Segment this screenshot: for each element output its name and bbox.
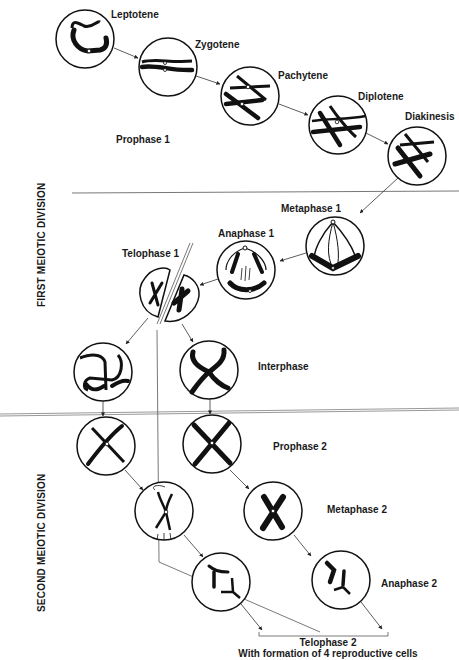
label-anaphase2: Anaphase 2 <box>381 579 437 589</box>
label-pachytene: Pachytene <box>278 71 328 81</box>
telophase2-caption: Telophase 2 With formation of 4 reproduc… <box>238 637 418 659</box>
telophase2-bracket <box>259 632 388 636</box>
cell-diakinesis <box>388 127 446 185</box>
label-metaphase2: Metaphase 2 <box>327 505 387 515</box>
label-diplotene: Diplotene <box>358 92 404 102</box>
label-interphase: Interphase <box>258 362 309 372</box>
cell-interphase-left <box>74 343 132 401</box>
telophase2-title: Telophase 2 <box>238 637 418 648</box>
cell-leptotene <box>56 10 114 68</box>
label-prophase1: Prophase 1 <box>116 135 170 145</box>
cell-prophase2-left <box>77 417 135 475</box>
cell-zygotene <box>139 38 197 96</box>
label-leptotene: Leptotene <box>111 10 159 20</box>
cell-anaphase2-left <box>192 553 250 611</box>
cell-prophase2-right <box>183 415 241 473</box>
telophase2-subtitle: With formation of 4 reproductive cells <box>238 648 418 659</box>
cell-anaphase2-right <box>312 551 370 609</box>
label-metaphase1: Metaphase 1 <box>281 204 341 214</box>
label-diakinesis: Diakinesis <box>405 112 454 122</box>
cell-metaphase2-left <box>135 482 193 540</box>
cell-telophase1 <box>140 268 199 321</box>
section-label-second-division: SECOND MEIOTIC DIVISION <box>36 473 47 612</box>
cell-diplotene <box>309 96 367 154</box>
telophase1-arrows <box>126 318 193 344</box>
prophase2-arrows <box>125 470 249 490</box>
metaphase2-arrows <box>184 535 311 557</box>
label-prophase2: Prophase 2 <box>273 442 327 452</box>
cell-anaphase1 <box>217 241 275 299</box>
cell-metaphase2-right <box>244 482 302 540</box>
section-label-first-division: FIRST MEIOTIC DIVISION <box>36 183 47 307</box>
anaphase2-arrows <box>241 602 382 630</box>
cell-metaphase1 <box>306 217 364 275</box>
label-telophase1: Telophase 1 <box>122 249 179 259</box>
cell-interphase-right <box>180 341 238 399</box>
arrow-metaphase1-to-anaphase1 <box>280 253 306 261</box>
label-anaphase1: Anaphase 1 <box>218 229 274 239</box>
cell-pachytene <box>221 67 279 125</box>
label-zygotene: Zygotene <box>195 40 239 50</box>
arrow-anaphase1-to-telophase1 <box>200 279 218 285</box>
